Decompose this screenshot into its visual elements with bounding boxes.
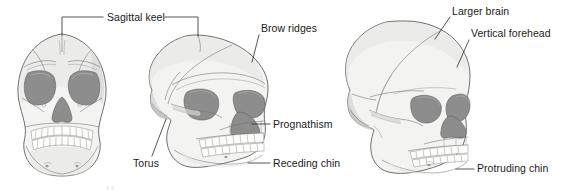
- leader-sagittal-keel-right: [165, 17, 198, 36]
- clipped-caption-remnant: [106, 186, 114, 190]
- label-vertical-forehead: Vertical forehead: [471, 27, 551, 39]
- skull-modern-right: [346, 21, 470, 174]
- label-prognathism: Prognathism: [273, 118, 333, 130]
- leader-torus: [152, 119, 166, 156]
- label-brow-ridges: Brow ridges: [261, 22, 317, 34]
- label-sagittal-keel: Sagittal keel: [107, 11, 165, 23]
- label-torus: Torus: [133, 157, 159, 169]
- leader-brow-ridges: [252, 35, 259, 62]
- skull-archaic-center: [149, 35, 268, 167]
- label-larger-brain: Larger brain: [452, 5, 509, 17]
- skull-comparison-figure: Sagittal keel Brow ridges Prognathism Re…: [0, 0, 562, 193]
- skull-frontal-left: [18, 34, 106, 176]
- label-protruding-chin: Protruding chin: [477, 162, 548, 174]
- label-receding-chin: Receding chin: [273, 157, 340, 169]
- leader-sagittal-keel-left: [62, 17, 103, 35]
